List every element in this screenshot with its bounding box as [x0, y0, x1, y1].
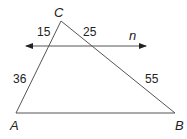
segment-label-lower-left: 36 [13, 72, 27, 86]
vertex-label-c: C [54, 5, 64, 20]
vertex-label-b: B [175, 118, 184, 133]
vertex-label-a: A [9, 118, 19, 133]
segment-label-upper-left: 15 [37, 25, 51, 39]
triangle-diagram: C A B n 15 25 36 55 [0, 0, 187, 139]
segment-label-lower-right: 55 [145, 72, 159, 86]
segment-label-upper-right: 25 [83, 25, 97, 39]
line-label-n: n [129, 28, 136, 43]
